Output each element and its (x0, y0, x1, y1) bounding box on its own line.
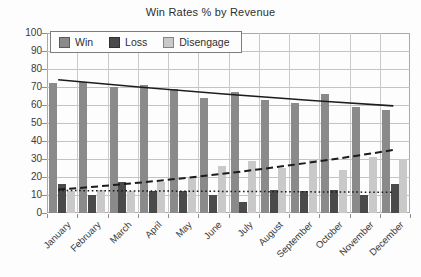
x-axis-label: January (18, 219, 72, 273)
bar-win-april (140, 85, 148, 213)
x-axis-tick (108, 214, 109, 218)
x-axis-tick (380, 214, 381, 218)
bar-disengage-april (157, 182, 165, 213)
y-tick-label: 80 (14, 63, 42, 74)
bar-disengage-august (278, 168, 286, 213)
y-tick-label: 50 (14, 117, 42, 128)
y-tick-label: 20 (14, 171, 42, 182)
bar-loss-april (149, 191, 157, 213)
y-tick-label: 0 (14, 207, 42, 218)
y-tick-label: 30 (14, 153, 42, 164)
x-axis-tick (259, 214, 260, 218)
x-axis-tick (77, 214, 78, 218)
bar-loss-december (391, 184, 399, 213)
y-axis-tick (42, 51, 47, 52)
bar-disengage-december (399, 159, 407, 213)
y-axis-tick (42, 123, 47, 124)
bar-disengage-may (188, 177, 196, 213)
bar-loss-july (239, 202, 247, 213)
bar-win-february (79, 82, 87, 213)
bar-win-january (49, 83, 57, 213)
v-gridline (229, 33, 230, 213)
v-gridline (289, 33, 290, 213)
loss-swatch-icon (109, 37, 120, 48)
chart-title: Win Rates % by Revenue (0, 6, 421, 18)
y-axis-tick (42, 33, 47, 34)
v-gridline (350, 33, 351, 213)
v-gridline (198, 33, 199, 213)
y-tick-label: 10 (14, 189, 42, 200)
y-axis-tick (42, 177, 47, 178)
bar-win-march (110, 87, 118, 213)
bar-win-october (321, 94, 329, 213)
bar-win-june (200, 98, 208, 213)
v-gridline (259, 33, 260, 213)
legend-label-disengage: Disengage (179, 36, 229, 48)
bar-win-may (170, 89, 178, 213)
bar-win-july (231, 92, 239, 213)
x-axis-tick (410, 214, 411, 218)
y-tick-label: 60 (14, 99, 42, 110)
disengage-swatch-icon (163, 37, 174, 48)
legend-item-loss: Loss (109, 36, 147, 48)
bar-loss-may (179, 191, 187, 213)
bar-disengage-september (309, 159, 317, 213)
bar-loss-september (300, 191, 308, 213)
y-axis-tick (42, 87, 47, 88)
chart: Win Rates % by Revenue Win Loss Disengag… (0, 0, 421, 277)
x-axis-tick (350, 214, 351, 218)
bar-loss-november (360, 195, 368, 213)
legend-label-loss: Loss (125, 36, 147, 48)
y-axis-tick (42, 105, 47, 106)
y-axis-tick (42, 195, 47, 196)
legend-item-disengage: Disengage (163, 36, 229, 48)
bar-disengage-march (127, 191, 135, 213)
bar-disengage-november (369, 157, 377, 213)
y-tick-label: 100 (14, 27, 42, 38)
bar-loss-january (58, 184, 66, 213)
x-axis-tick (319, 214, 320, 218)
bar-loss-october (330, 190, 338, 213)
legend-item-win: Win (59, 36, 93, 48)
x-axis-tick (138, 214, 139, 218)
y-axis-tick (42, 69, 47, 70)
bar-disengage-july (248, 161, 256, 213)
v-gridline (168, 33, 169, 213)
bar-loss-march (118, 182, 126, 213)
x-axis-tick (47, 214, 48, 218)
bar-disengage-october (339, 170, 347, 213)
v-gridline (77, 33, 78, 213)
bar-disengage-february (97, 190, 105, 213)
legend-label-win: Win (75, 36, 93, 48)
bar-win-december (382, 110, 390, 213)
bar-disengage-january (67, 191, 75, 213)
x-axis-tick (289, 214, 290, 218)
bar-win-november (352, 107, 360, 213)
x-axis-tick (168, 214, 169, 218)
bar-disengage-june (218, 166, 226, 213)
bar-loss-february (88, 195, 96, 213)
bar-win-september (291, 103, 299, 213)
y-tick-label: 40 (14, 135, 42, 146)
bar-win-august (261, 100, 269, 213)
v-gridline (138, 33, 139, 213)
x-axis-tick (229, 214, 230, 218)
y-tick-label: 90 (14, 45, 42, 56)
win-swatch-icon (59, 37, 70, 48)
x-axis-tick (198, 214, 199, 218)
v-gridline (380, 33, 381, 213)
y-tick-label: 70 (14, 81, 42, 92)
y-axis-tick (42, 159, 47, 160)
legend: Win Loss Disengage (50, 31, 242, 53)
v-gridline (108, 33, 109, 213)
bar-loss-august (270, 190, 278, 213)
bar-loss-june (209, 195, 217, 213)
y-axis-tick (42, 141, 47, 142)
v-gridline (319, 33, 320, 213)
